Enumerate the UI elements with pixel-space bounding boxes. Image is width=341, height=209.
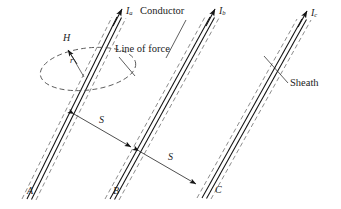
cable-a-sheath-right (36, 18, 126, 200)
figure-canvas: Ia Conductor Ib Ic H r Line of force She… (0, 0, 341, 209)
conductor-label: Conductor (140, 6, 184, 17)
current-b-subscript: b (222, 9, 225, 16)
current-b-label: Ib (219, 6, 226, 17)
cable-c-sheath-right (211, 20, 311, 199)
cable-c-conductor-edge-1 (202, 19, 302, 198)
cable-a-conductor-edge-1 (27, 17, 117, 199)
cable-c-sheath-left (197, 19, 297, 198)
current-a-subscript: a (129, 9, 132, 16)
cable-b-label: B (113, 186, 119, 196)
radius-label: r (70, 56, 73, 65)
line-of-force-leader-line (119, 57, 135, 76)
diagram-svg (0, 0, 341, 209)
cable-a-label: A (27, 186, 33, 196)
field-strength-label: H (63, 33, 70, 43)
cable-b-current-arrow (206, 9, 215, 26)
cable-a-sheath-left (22, 17, 112, 199)
cable-a-current-arrow (113, 9, 122, 26)
current-a-label: Ia (126, 6, 133, 17)
cable-a-group (22, 9, 126, 200)
cable-c-conductor-edge-2 (207, 20, 307, 199)
current-c-label: Ic (311, 8, 317, 19)
cable-c-label: C (215, 185, 222, 195)
spacing-ab-label: S (99, 115, 104, 125)
cable-b-group (105, 9, 219, 200)
spacing-bc-label: S (168, 152, 173, 162)
cable-c-current-arrow (298, 11, 307, 27)
sheath-label: Sheath (290, 78, 319, 89)
line-of-force-label: Line of force (115, 44, 170, 55)
cable-c-group (197, 11, 311, 199)
current-c-subscript: c (314, 11, 317, 18)
cable-a-conductor-edge-2 (32, 18, 122, 200)
